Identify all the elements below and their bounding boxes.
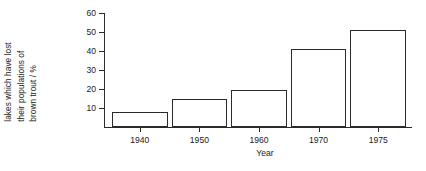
x-axis-label: Year (0, 148, 426, 158)
x-tick-mark-1950 (199, 127, 200, 132)
x-axis-line (104, 127, 412, 128)
x-tick-label-1975: 1975 (369, 135, 388, 145)
y-axis-label-line-3: brown trout / % (27, 65, 40, 122)
bar-1950 (172, 99, 228, 128)
y-tick-mark (99, 89, 104, 90)
bar-1975 (350, 30, 406, 127)
y-tick-label: 60 (76, 8, 96, 18)
bar-1970 (291, 49, 347, 127)
bar-chart: lakes which have lost their populations … (0, 0, 426, 171)
bar-1940 (112, 112, 168, 127)
y-axis-label-line-1: lakes which have lost (2, 42, 15, 121)
x-tick-label-1950: 1950 (190, 135, 209, 145)
y-tick-label: 20 (76, 84, 96, 94)
y-axis-spine (104, 13, 105, 128)
y-axis-label-line-2: their populations of (15, 51, 28, 122)
plot-area: 102030405060 19401950196019701975 (104, 13, 412, 128)
x-tick-label-1940: 1940 (130, 135, 149, 145)
y-tick-mark (99, 51, 104, 52)
y-axis-label: lakes which have lost their populations … (0, 17, 43, 147)
y-tick-mark (99, 13, 104, 14)
y-tick-mark (99, 32, 104, 33)
x-tick-mark-1970 (319, 127, 320, 132)
x-tick-mark-1940 (140, 127, 141, 132)
x-tick-label-1970: 1970 (309, 135, 328, 145)
y-tick-label: 50 (76, 27, 96, 37)
y-tick-label: 40 (76, 46, 96, 56)
x-tick-mark-1960 (259, 127, 260, 132)
x-axis-label-text: Year (256, 148, 273, 158)
y-tick-label: 10 (76, 103, 96, 113)
y-tick-label: 30 (76, 65, 96, 75)
x-tick-mark-1975 (378, 127, 379, 132)
y-tick-mark (99, 70, 104, 71)
x-tick-label-1960: 1960 (249, 135, 268, 145)
y-tick-mark (99, 108, 104, 109)
bar-1960 (231, 90, 287, 127)
